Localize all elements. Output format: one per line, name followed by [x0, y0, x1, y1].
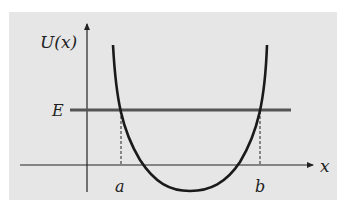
energy-label: E: [51, 101, 64, 120]
y-axis-label: U(x): [40, 32, 77, 52]
turning-point-a-label: a: [115, 177, 125, 196]
turning-point-b-label: b: [255, 177, 265, 196]
x-axis-label: x: [320, 156, 330, 176]
potential-diagram: U(x) E a b x: [0, 0, 359, 214]
potential-curve: [113, 45, 267, 191]
